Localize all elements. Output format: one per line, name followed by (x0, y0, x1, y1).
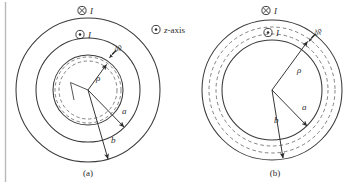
panel-a-a-label: a (122, 106, 127, 116)
dot-in-circle-icon-dot (79, 33, 82, 36)
panel-b-current-in-label: I (273, 6, 278, 16)
panel-a-caption: (a) (83, 168, 93, 178)
panel-a-current-out-marker (76, 30, 84, 38)
z-axis-legend: z-axis (152, 25, 186, 35)
dot-in-circle-icon-dot (267, 31, 270, 34)
panel-a-current-in-label: I (89, 6, 94, 16)
panel-a-rho-label: ρ (95, 73, 101, 83)
panel-a-drho-arrow (109, 52, 114, 58)
figure-canvas: I I ρ dρ a b (a) z-axis (0, 0, 362, 184)
z-axis-dot-in-circle-icon-dot (155, 28, 158, 31)
panel-b-rho-vector (272, 42, 308, 91)
panel-a-sector-edge-2 (71, 83, 75, 101)
panel-b-drho-arrow (309, 36, 314, 42)
panel-a-sector-edge (71, 83, 89, 91)
panel-b-b-label: b (274, 115, 279, 125)
panel-b-current-in-marker (262, 6, 270, 14)
panel-a-current-in-marker (78, 6, 86, 14)
physics-figure-pair: I I ρ dρ a b (a) z-axis (0, 0, 362, 184)
panel-b-caption: (b) (270, 168, 281, 178)
panel-b-a-label: a (302, 102, 307, 112)
panel-b-current-out-label: I (275, 28, 280, 38)
panel-a: I I ρ dρ a b (a) (16, 6, 160, 178)
panel-b-current-out-marker (264, 28, 272, 36)
z-axis-legend-label: z-axis (163, 25, 186, 35)
panel-b: I I ρ dρ a b (b) (202, 6, 342, 178)
panel-a-b-label: b (111, 135, 116, 145)
panel-b-rho-label: ρ (296, 65, 302, 75)
